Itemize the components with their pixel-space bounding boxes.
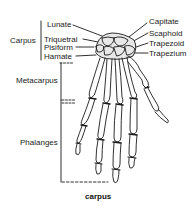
- label-scaphoid: Scaphoid: [149, 29, 182, 38]
- label-carpus: Carpus: [10, 36, 36, 45]
- label-pisiform: Pisiform: [44, 43, 73, 52]
- label-trapezoid: Trapezoid: [149, 39, 184, 48]
- label-phalanges: Phalanges: [20, 138, 58, 147]
- label-trapezium: Trapezium: [149, 49, 187, 58]
- label-hamate: Hamate: [44, 52, 72, 61]
- label-metacarpus: Metacarpus: [16, 76, 58, 85]
- caption: carpus: [85, 192, 111, 201]
- label-lunate: Lunate: [47, 20, 71, 29]
- label-capitate: Capitate: [149, 17, 179, 26]
